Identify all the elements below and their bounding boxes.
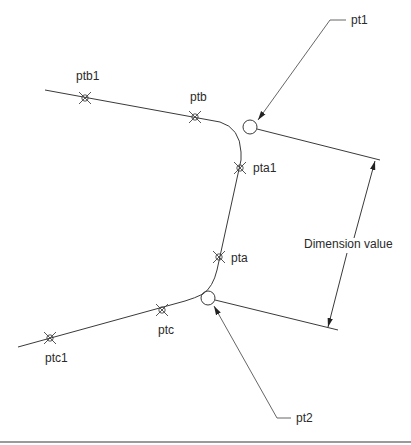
label-ptb1: ptb1 <box>76 69 100 83</box>
pt2-circle <box>201 291 215 305</box>
dimension-line-lower <box>328 253 347 327</box>
diagram-canvas: pt1 pt2 ptb1 ptb pta1 pta ptc ptc1 Dimen… <box>0 0 411 445</box>
upper-road-line <box>45 90 241 160</box>
label-pta: pta <box>231 251 248 265</box>
dimension-line-upper <box>354 161 375 238</box>
label-ptc: ptc <box>158 323 174 337</box>
label-pt1: pt1 <box>351 13 368 27</box>
leader-pt1 <box>258 20 346 120</box>
label-ptc1: ptc1 <box>45 351 68 365</box>
leader-pt2 <box>214 306 291 418</box>
extension-line-top <box>257 129 380 160</box>
point-marker-ptc <box>156 304 168 316</box>
pt1-circle <box>243 120 257 134</box>
extension-line-bottom <box>215 300 338 330</box>
lower-road-line <box>18 294 203 347</box>
point-marker-ptc1 <box>44 332 56 344</box>
vertical-segment-line <box>203 160 241 294</box>
label-pta1: pta1 <box>253 161 277 175</box>
label-pt2: pt2 <box>296 411 313 425</box>
bottom-divider <box>0 441 411 443</box>
label-ptb: ptb <box>190 90 207 104</box>
label-dimension-value: Dimension value <box>304 237 393 251</box>
